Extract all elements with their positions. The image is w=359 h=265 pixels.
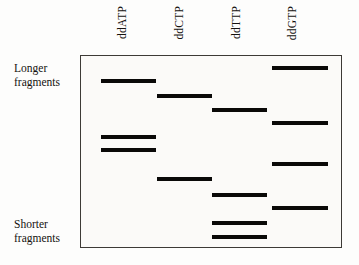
- longer-fragments-label: Longer fragments: [14, 62, 60, 89]
- band-ddatp-3: [101, 148, 156, 152]
- band-ddttp-3: [212, 221, 267, 225]
- longer-fragments-line2: fragments: [14, 76, 60, 90]
- shorter-fragments-line2: fragments: [14, 232, 60, 246]
- lane-label-ddgtp: ddGTP: [287, 6, 299, 40]
- band-ddgtp-4: [272, 206, 328, 210]
- sequencing-gel-figure: ddATP ddCTP ddTTP ddGTP Longer fragments…: [0, 0, 359, 265]
- band-ddgtp-2: [272, 121, 328, 125]
- band-ddgtp-3: [272, 162, 328, 166]
- shorter-fragments-line1: Shorter: [14, 218, 60, 232]
- band-ddatp-2: [101, 135, 156, 139]
- band-ddttp-2: [212, 193, 267, 197]
- band-ddgtp-1: [272, 66, 328, 70]
- longer-fragments-line1: Longer: [14, 62, 60, 76]
- band-ddctp-2: [157, 177, 212, 181]
- band-ddctp-1: [157, 94, 212, 98]
- band-ddatp-1: [101, 79, 156, 83]
- shorter-fragments-label: Shorter fragments: [14, 218, 60, 245]
- band-ddttp-4: [212, 235, 267, 239]
- lane-label-ddttp: ddTTP: [231, 6, 243, 39]
- band-ddttp-1: [212, 108, 267, 112]
- lane-label-ddctp: ddCTP: [174, 6, 186, 40]
- lane-label-ddatp: ddATP: [117, 6, 129, 39]
